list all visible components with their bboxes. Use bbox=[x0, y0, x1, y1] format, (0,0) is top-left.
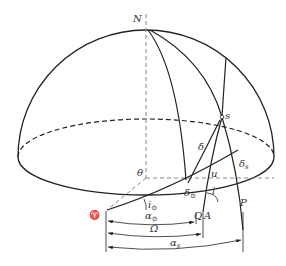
label-sun-declination: δ⊙ bbox=[184, 187, 196, 200]
label-satellite: s bbox=[225, 110, 230, 121]
label-q: Q bbox=[194, 210, 202, 221]
label-vernal-equinox: ♈ bbox=[89, 209, 100, 220]
label-declination: δ bbox=[198, 141, 204, 152]
label-sat-ra: αs bbox=[170, 237, 181, 250]
label-inclination: i bbox=[212, 185, 215, 196]
sun-inclination-arc bbox=[144, 199, 146, 210]
meridian-right bbox=[222, 58, 226, 117]
meridian-sun bbox=[148, 30, 186, 180]
label-p: P bbox=[239, 197, 247, 208]
label-sat-declination: δs bbox=[239, 158, 249, 171]
ecliptic bbox=[107, 150, 238, 210]
satellite-point bbox=[220, 115, 224, 119]
label-theta: θ bbox=[137, 167, 143, 178]
celestial-sphere-diagram: N s δ δs u θ δ⊙ i i⊙ ♈ Q A P α⊙ Ω αs bbox=[0, 0, 286, 266]
label-north: N bbox=[132, 13, 143, 24]
label-argument-u: u bbox=[211, 168, 217, 179]
label-a: A bbox=[203, 210, 211, 221]
label-raan: Ω bbox=[149, 223, 158, 234]
